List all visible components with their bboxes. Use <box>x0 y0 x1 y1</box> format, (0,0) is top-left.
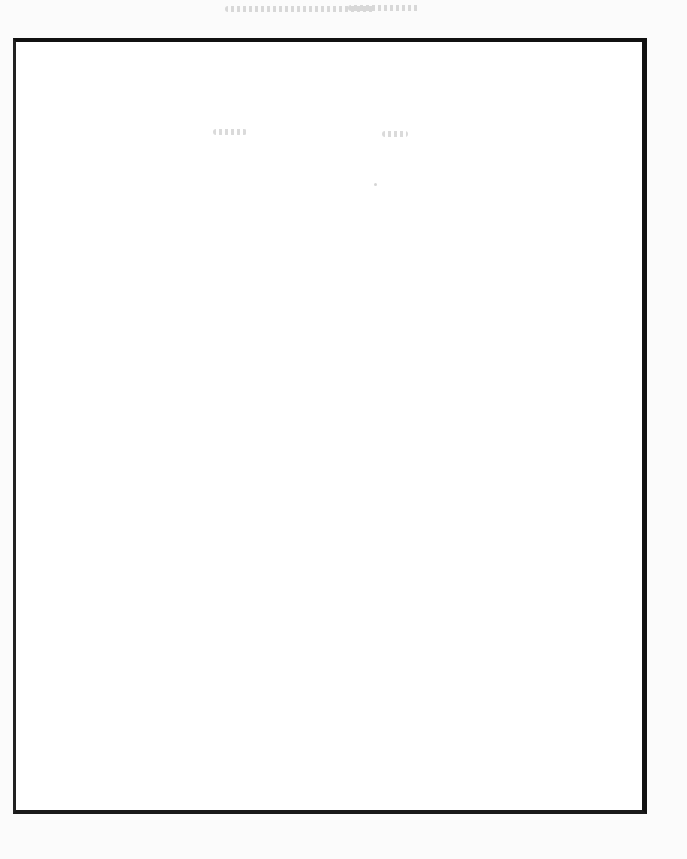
bleed-through-mark-left <box>213 129 247 135</box>
page-border-frame <box>13 38 647 814</box>
bleed-through-header-right <box>348 5 420 11</box>
bleed-through-mark-right <box>382 131 408 137</box>
bleed-through-dot <box>374 183 377 186</box>
